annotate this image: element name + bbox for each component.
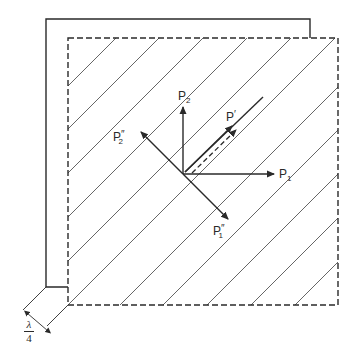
label-p1-double-prime: P″1 xyxy=(213,225,223,240)
label-p2dp-mark: ″ xyxy=(121,129,125,140)
label-p1-sub: 1 xyxy=(287,174,291,183)
label-p2-double-prime: P″2 xyxy=(113,131,123,146)
label-lambda-over-4: λ 4 xyxy=(23,319,35,344)
label-p-prime-mark: ′ xyxy=(234,109,236,120)
label-p-prime-base: P xyxy=(226,110,234,124)
p2-double-prime-vector xyxy=(141,132,183,174)
fraction-numerator: λ xyxy=(23,319,35,330)
label-p2: P2 xyxy=(178,90,190,105)
plate-hatching xyxy=(68,35,338,305)
label-p-prime: P′ xyxy=(226,111,236,123)
label-p1dp-mark: ″ xyxy=(221,223,225,234)
p-prime-dashed-vector xyxy=(192,130,236,173)
polarization-vectors xyxy=(141,97,274,219)
label-p1: P1 xyxy=(279,168,291,183)
diagram-canvas xyxy=(0,0,357,363)
label-p1-base: P xyxy=(279,167,287,181)
label-p2-base: P xyxy=(178,89,186,103)
p1-double-prime-vector xyxy=(183,174,228,219)
label-p2-sub: 2 xyxy=(186,96,190,105)
fraction-denominator: 4 xyxy=(23,333,35,344)
quarter-wave-plate-diagram: P2 P1 P′ P″2 P″1 λ 4 xyxy=(0,0,357,363)
